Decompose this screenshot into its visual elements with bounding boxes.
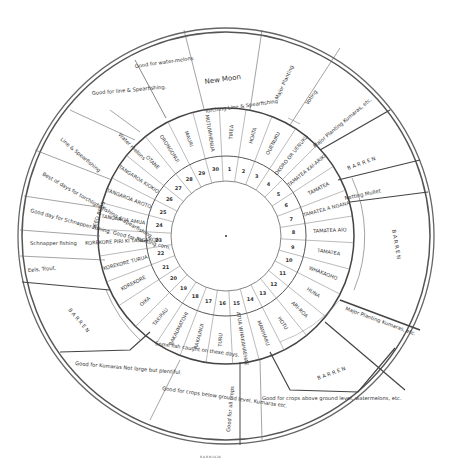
day-number: 5 [277, 191, 281, 197]
day-name: KOREKORE [120, 274, 147, 292]
day-spoke [219, 108, 223, 181]
activity-good-watermelons: Good for water-melons [134, 55, 194, 69]
day-name: ATUA WHAKAHAEHAE [236, 311, 250, 365]
day-name: ORONGONUI [159, 134, 181, 164]
activity-barren-2: B A R R E N [391, 229, 402, 259]
day-number: 9 [291, 244, 295, 250]
day-number: 20 [170, 275, 177, 281]
activity-kumaras-plentiful: Good for Kumaras Not large but plentiful… [75, 360, 183, 376]
day-number: 27 [175, 185, 182, 191]
day-number: 19 [180, 285, 187, 291]
day-name: TURU [217, 332, 224, 347]
day-number: 16 [219, 300, 226, 306]
day-name: OUENUKU [264, 130, 281, 155]
day-number: 17 [205, 298, 212, 304]
activity-major-planting: Major Planting [273, 64, 295, 101]
activity-barren-1: B A R R E N [346, 155, 376, 171]
day-number: 8 [292, 229, 296, 235]
day-number: 26 [166, 196, 173, 202]
activity-barren-3: B A R R E N [316, 365, 346, 381]
day-number: 2 [242, 168, 246, 174]
activity-schnapper: Schnapper fishing [30, 240, 77, 247]
day-number: 6 [284, 202, 288, 208]
day-name: TANGAROA KIOKIO [117, 163, 160, 194]
day-name: MAWHARU [256, 319, 271, 346]
day-number: 12 [270, 281, 277, 287]
day-number: 11 [279, 270, 286, 276]
activity-good-line: Good for line & Spearfishing. [92, 83, 167, 97]
activity-new-moon: New Moon [204, 73, 241, 86]
activity-line-spearfishing: Line & Spearfishing [59, 136, 102, 174]
day-name: TIREA [228, 124, 235, 140]
day-name: WHAKAOHO [308, 265, 338, 281]
activity-barren-4: B A R R E N [67, 307, 91, 334]
day-name: HOATA [247, 126, 257, 144]
lunar-calendar-wheel: 1TIREA2HOATA3OUENUKU4OKORO OR UENUKU5TAM… [0, 0, 452, 469]
day-number: 28 [186, 176, 193, 182]
footer-caption: B.A.R.N.14.28 [200, 455, 221, 459]
day-number: 18 [192, 293, 199, 299]
activity-above-ground: Good for crops above ground level, water… [262, 395, 402, 402]
day-name: OIKA [138, 295, 152, 308]
day-number: 3 [255, 173, 259, 179]
day-number: 21 [162, 264, 169, 270]
day-name: TAMATEA [306, 180, 331, 197]
activity-watermelons: Water melons [117, 131, 147, 161]
day-number: 4 [267, 181, 271, 187]
day-number: 30 [212, 166, 219, 172]
activity-voting: Voting [304, 89, 319, 106]
day-number: 29 [198, 170, 205, 176]
activity-major-planting-3: Major Planting Kumaras, etc. [344, 305, 417, 337]
day-number: 14 [247, 296, 254, 302]
activity-eels-trout: Eels, Trout. [28, 265, 57, 273]
day-name: KOREKORE TURUA [102, 253, 149, 271]
day-name: TANGAROA AROTO [105, 187, 152, 210]
day-number: 1 [228, 166, 232, 172]
center-dot [225, 235, 227, 237]
day-number: 25 [159, 209, 166, 215]
day-name: HOTU [277, 315, 290, 331]
day-name: TAMATEA A NGANA [301, 199, 350, 218]
day-number: 7 [289, 216, 293, 222]
day-number: 10 [286, 257, 293, 263]
activity-major-planting-2: Major Planting Kumaras, etc. [312, 96, 374, 149]
day-number: 13 [259, 290, 266, 296]
day-name: TAKIRAU [151, 306, 170, 327]
day-number: 22 [157, 250, 164, 256]
day-name: ARI-ROA [290, 300, 309, 319]
day-name: MAURI [183, 130, 194, 147]
day-name: HUNA [306, 286, 322, 299]
day-name: TAMATEA AIO [312, 226, 347, 234]
day-name: MUTUWHENUA [204, 114, 216, 152]
day-number: 15 [233, 300, 240, 306]
day-labels: 1TIREA2HOATA3OUENUKU4OKORO OR UENUKU5TAM… [85, 114, 351, 366]
activity-torching: Torching Line & Spearfishing [203, 98, 278, 115]
activity-all-crops: Good for all crops [225, 386, 236, 433]
day-number: 24 [156, 222, 163, 228]
day-spoke [281, 239, 354, 243]
day-name: TAMATEA [316, 247, 341, 257]
